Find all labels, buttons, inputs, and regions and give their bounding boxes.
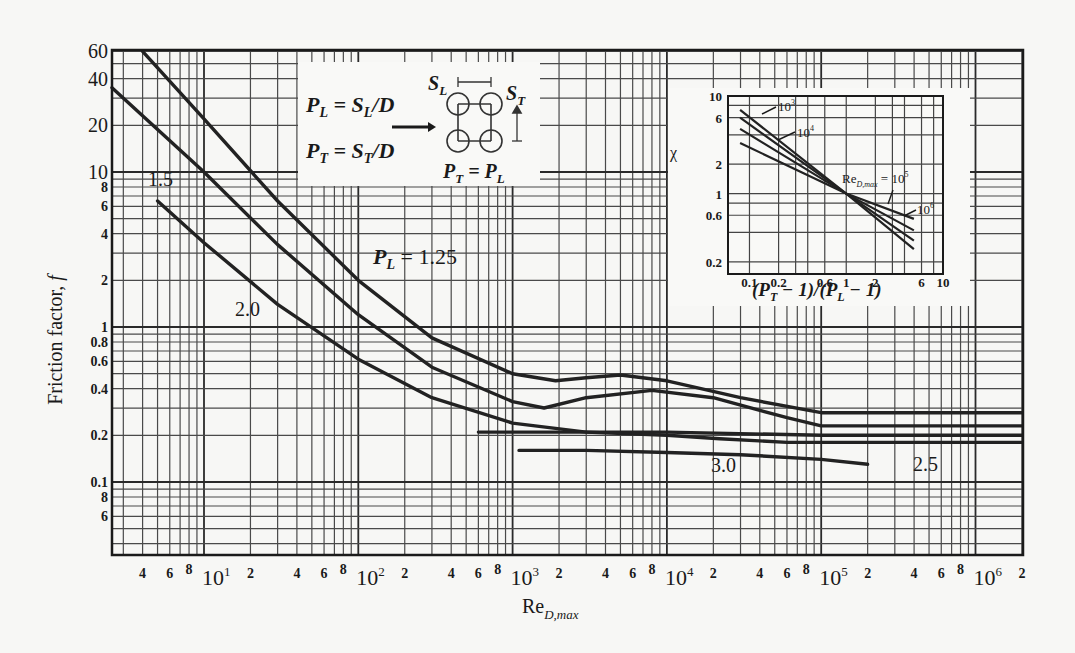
inset-y-tick-label: 0.2 <box>706 255 722 270</box>
x-tick-label: 4 <box>139 566 146 581</box>
y-tick-label: 6 <box>101 509 108 524</box>
curve-label-2-5: 2.5 <box>913 453 938 475</box>
x-tick-label: 2 <box>710 566 717 581</box>
x-tick-label: 8 <box>494 562 501 577</box>
inset-x-tick-label: 6 <box>918 275 925 290</box>
curve-label-2-0: 2.0 <box>235 298 260 320</box>
inset-x-tick-label: 10 <box>937 275 950 290</box>
svg-text:PL = SL/D: PL = SL/D <box>305 92 394 120</box>
y-tick-label: 4 <box>101 227 108 242</box>
x-tick-label: 8 <box>186 562 193 577</box>
y-tick-label: 6 <box>101 199 108 214</box>
x-tick-label: 4 <box>293 566 300 581</box>
curve-label-1-5: 1.5 <box>148 168 173 190</box>
y-tick-label: 0.1 <box>91 475 109 490</box>
inset-y-tick-label: 2 <box>716 157 723 172</box>
x-tick-label: 8 <box>957 562 964 577</box>
x-tick-label: 4 <box>911 566 918 581</box>
y-tick-label: 8 <box>101 180 108 195</box>
svg-text:PT = ST/D: PT = ST/D <box>305 138 394 166</box>
y-tick-label: 0.6 <box>91 354 109 369</box>
x-tick-label: 2 <box>864 566 871 581</box>
definition-box: PL = SL/D PT = ST/D SL ST PT = PL <box>298 62 540 186</box>
inset-chart: 106210.60.2 0.10.20.612610 χ (PT − 1)/(P… <box>668 88 970 306</box>
x-tick-label: 6 <box>629 566 636 581</box>
x-tick-label: 6 <box>783 566 790 581</box>
x-tick-label: 2 <box>1018 566 1025 581</box>
x-tick-label: 4 <box>602 566 609 581</box>
friction-factor-chart: 60402010864210.80.60.40.20.186 468101246… <box>0 0 1075 653</box>
pt-definition: = S <box>328 138 364 163</box>
x-tick-label: 2 <box>556 566 563 581</box>
y-tick-label: 0.4 <box>91 382 109 397</box>
y-tick-label: 8 <box>101 490 108 505</box>
x-tick-label: 6 <box>475 566 482 581</box>
inset-y-tick-label: 1 <box>716 187 723 202</box>
x-tick-label: 6 <box>166 566 173 581</box>
y-axis-title: Friction factor, f <box>44 273 67 405</box>
x-tick-label: 2 <box>401 566 408 581</box>
x-tick-label: 4 <box>756 566 763 581</box>
curve-label-1-25: PL = 1.25 <box>372 244 457 272</box>
x-tick-label: 6 <box>321 566 328 581</box>
y-tick-label: 0.2 <box>91 428 109 443</box>
inset-y-tick-label: 10 <box>709 89 722 104</box>
pl-definition: = S <box>328 92 364 117</box>
x-tick-label: 8 <box>803 562 810 577</box>
y-tick-label: 40 <box>88 68 108 90</box>
x-tick-label: 8 <box>340 562 347 577</box>
x-tick-label: 6 <box>938 566 945 581</box>
x-tick-label: 2 <box>247 566 254 581</box>
inset-y-tick-label: 6 <box>716 111 723 126</box>
y-tick-label: 20 <box>88 114 108 136</box>
y-tick-label: 1 <box>101 320 108 335</box>
x-tick-label: 8 <box>648 562 655 577</box>
curve-label-3-0: 3.0 <box>711 454 736 476</box>
inset-ylabel: χ <box>669 144 678 162</box>
y-tick-label: 60 <box>88 40 108 62</box>
y-tick-label: 0.8 <box>91 335 109 350</box>
inset-y-tick-label: 0.6 <box>706 208 723 223</box>
x-tick-label: 4 <box>448 566 455 581</box>
y-tick-label: 2 <box>101 273 108 288</box>
